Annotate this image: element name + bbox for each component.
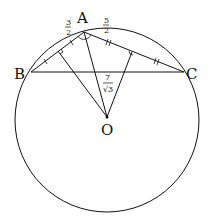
circumcircle xyxy=(15,28,199,212)
segment-AO xyxy=(84,32,107,117)
label-C: C xyxy=(186,65,197,83)
geometry-diagram: A B C O 3 2 5 2 7 √3 xyxy=(0,0,210,218)
svg-text:3: 3 xyxy=(66,18,71,27)
tick-AC-1 xyxy=(106,39,111,46)
svg-text:7: 7 xyxy=(105,73,110,82)
label-B: B xyxy=(14,65,25,83)
perpendicular-to-AB xyxy=(58,51,107,117)
svg-text:√3: √3 xyxy=(103,85,113,94)
svg-text:2: 2 xyxy=(104,26,109,35)
svg-text:2: 2 xyxy=(66,28,71,37)
segment-AB xyxy=(31,32,84,72)
label-A: A xyxy=(76,9,88,27)
svg-text:5: 5 xyxy=(104,16,109,25)
fraction-7-over-sqrt3: 7 √3 xyxy=(103,73,113,94)
fraction-5-over-2: 5 2 xyxy=(103,16,109,35)
fraction-3-over-2: 3 2 xyxy=(65,18,71,37)
label-O: O xyxy=(101,121,113,139)
angle-arc-OAC xyxy=(86,35,91,39)
center-point-O xyxy=(106,116,109,119)
